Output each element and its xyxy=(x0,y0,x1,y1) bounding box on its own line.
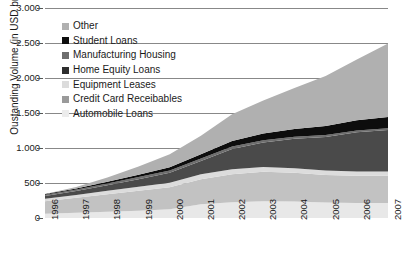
legend-swatch-icon xyxy=(62,96,69,103)
x-tick-label: 2004 xyxy=(298,180,309,220)
x-tick-label: 1998 xyxy=(111,180,122,220)
x-tick-label: 2003 xyxy=(267,180,278,220)
legend-item[interactable]: Automobile Loans xyxy=(62,107,182,122)
legend-item-label: Equipment Leases xyxy=(73,80,156,90)
legend-item-label: Student Loans xyxy=(73,36,138,46)
y-tick-label: 3.000 xyxy=(4,3,40,13)
legend-item-label: Automobile Loans xyxy=(73,109,153,119)
y-tick-mark xyxy=(37,78,43,79)
y-tick-mark xyxy=(37,113,43,114)
x-tick-label: 2002 xyxy=(236,180,247,220)
y-tick-mark xyxy=(37,8,43,9)
y-tick-label: 1.000 xyxy=(4,143,40,153)
y-tick-label: 1.500 xyxy=(4,108,40,118)
y-tick-label: 500 xyxy=(4,178,40,188)
legend-item-label: Credit Card Receibables xyxy=(73,94,182,104)
legend-item[interactable]: Other xyxy=(62,19,182,34)
legend-item[interactable]: Student Loans xyxy=(62,34,182,49)
x-tick-label: 2005 xyxy=(330,180,341,220)
legend-swatch-icon xyxy=(62,52,69,59)
legend-item-label: Other xyxy=(73,21,98,31)
legend-swatch-icon xyxy=(62,110,69,117)
chart-legend: OtherStudent LoansManufacturing HousingH… xyxy=(62,19,182,121)
x-tick-label: 1999 xyxy=(143,180,154,220)
y-tick-mark xyxy=(37,148,43,149)
x-tick-label: 2006 xyxy=(361,180,372,220)
legend-item-label: Home Equity Loans xyxy=(73,65,160,75)
x-axis-ticks: 1996199719981999200020012002200320042005… xyxy=(45,220,388,270)
y-axis-ticks: 3.0002.5002.0001.5001.0005000 xyxy=(0,0,40,270)
x-tick-label: 1997 xyxy=(80,180,91,220)
x-tick-label: 1996 xyxy=(49,180,60,220)
legend-item[interactable]: Manufacturing Housing xyxy=(62,48,182,63)
y-tick-mark xyxy=(37,183,43,184)
legend-item[interactable]: Home Equity Loans xyxy=(62,63,182,78)
legend-item-label: Manufacturing Housing xyxy=(73,50,176,60)
x-tick-label: 2001 xyxy=(205,180,216,220)
y-tick-mark xyxy=(37,218,43,219)
y-tick-label: 2.000 xyxy=(4,73,40,83)
legend-swatch-icon xyxy=(62,37,69,44)
x-tick-label: 2007 xyxy=(392,180,403,220)
legend-swatch-icon xyxy=(62,23,69,30)
legend-item[interactable]: Credit Card Receibables xyxy=(62,92,182,107)
legend-item[interactable]: Equipment Leases xyxy=(62,77,182,92)
legend-swatch-icon xyxy=(62,67,69,74)
y-tick-label: 0 xyxy=(4,213,40,223)
y-tick-label: 2.500 xyxy=(4,38,40,48)
x-tick-label: 2000 xyxy=(174,180,185,220)
y-tick-mark xyxy=(37,43,43,44)
legend-swatch-icon xyxy=(62,81,69,88)
